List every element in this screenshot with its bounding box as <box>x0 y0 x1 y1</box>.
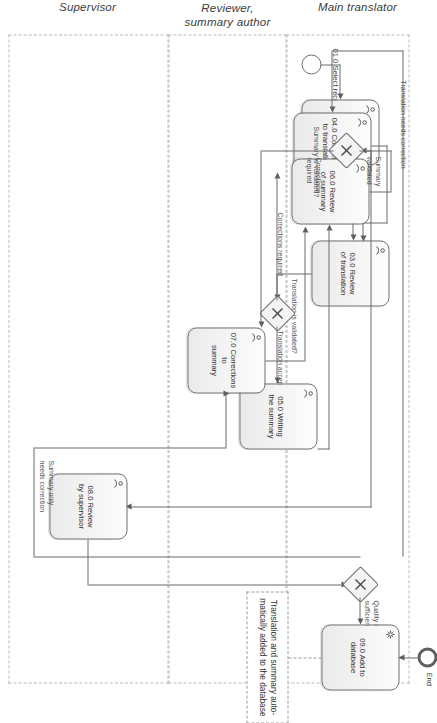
flow-gw1-to-t04-arrow <box>275 172 281 178</box>
start-event[interactable] <box>301 54 321 74</box>
annotation-database-link <box>288 657 321 658</box>
label-summary-only-needs-correction: Summary only needs correction <box>37 460 62 512</box>
flow-t05-to-t06-v <box>317 448 329 449</box>
flow-t04-loop-arrow <box>361 235 367 241</box>
flow-gw3-summary-corr-h2 <box>225 393 226 447</box>
label-translation-needs-correction: Translation needs correction <box>397 80 414 168</box>
end-event-label: End <box>424 672 433 686</box>
task-06-review-of-summary[interactable]: 06.0 Review of summary <box>291 158 369 224</box>
annotation-database-text: Translation and summary auto- matically … <box>256 598 279 716</box>
label-corrections-required-1-text: Corrections required <box>276 212 283 275</box>
flow-t09-to-end-arrow <box>398 654 404 660</box>
flow-start-to-t02-v <box>320 64 340 65</box>
lane-label-main-translator: Main translator <box>317 0 396 12</box>
label-summary-validated: Summary validated <box>364 156 389 186</box>
flow-gw3-to-t09-h <box>359 597 360 619</box>
task-07-label: 07.0 Corrections to summary <box>188 328 264 392</box>
label-corrections-required-1: Corrections required <box>274 212 291 275</box>
flow-gw3-summary-corr-v2 <box>34 556 360 557</box>
gateway-quality-sufficient[interactable] <box>347 571 373 597</box>
flow-t08-to-gw3-v <box>88 584 341 585</box>
task-03-review-of-translation[interactable]: 03.0 Review of translation <box>311 240 389 306</box>
label-summary-validated-text: Summary validated <box>365 156 380 186</box>
label-corrections-required-2-text: Corrections required <box>305 157 320 193</box>
flow-t02-to-t03-arrow <box>351 234 357 240</box>
flow-gw2-corr-v <box>261 150 333 151</box>
lane-label-text-reviewer: Reviewer, summary author <box>184 1 270 27</box>
gateway-translation-validated[interactable] <box>264 300 290 326</box>
flow-gw2-corr-arrow <box>259 321 265 327</box>
flow-start-to-t02-h <box>339 64 340 94</box>
task-03-label: 03.0 Review of translation <box>312 241 388 305</box>
flow-t07-back-arrow <box>303 226 309 232</box>
flow-t07-back-h <box>304 232 305 360</box>
lane-label-reviewer: Reviewer, summary author <box>184 0 270 29</box>
task-09-label: 09.0 Add to database <box>322 625 398 689</box>
flow-translation-needs-correction-h2 <box>331 50 332 108</box>
flow-gw2-validated-v <box>359 150 371 151</box>
lane-label-text-supervisor: Supervisor <box>59 0 116 12</box>
flow-t06-to-gw2-v <box>369 191 391 192</box>
flow-gw2-corr-h <box>260 150 261 322</box>
lane-label-supervisor: Supervisor <box>59 0 116 12</box>
flow-translation-needs-correction-v <box>332 50 403 51</box>
lane-label-text-main: Main translator <box>317 0 396 12</box>
flow-t06-to-gw2-h <box>390 150 391 191</box>
flow-t05-to-t06-arrow <box>327 224 333 230</box>
task-07-corrections-to-summary[interactable]: 07.0 Corrections to summary <box>187 327 265 393</box>
annotation-database: Translation and summary auto- matically … <box>246 591 288 723</box>
flow-t07-back-v <box>265 360 305 361</box>
end-event-label-text: End <box>424 672 433 686</box>
flow-gw3-summary-corr-v3 <box>34 447 226 448</box>
flow-gw3-to-t09-arrow <box>358 618 364 624</box>
flow-gw3-summary-corr-h <box>33 447 34 557</box>
flow-start-to-t02-arrow <box>338 93 344 99</box>
end-event[interactable] <box>417 647 437 667</box>
flow-t04-loop-v1 <box>371 145 387 146</box>
label-summary-only-needs-correction-text: Summary only needs correction <box>38 460 53 512</box>
flow-translation-needs-correction-arrow <box>330 106 336 112</box>
flow-gw2-validated-h <box>370 150 371 507</box>
task-05-label: 05.0 Writing the summary <box>240 384 316 448</box>
lane-supervisor <box>8 34 168 683</box>
gateway-summary-validated[interactable] <box>333 137 359 163</box>
label-corrections-required-2: Corrections required <box>304 157 329 193</box>
label-translation-needs-correction-text: Translation needs correction <box>399 80 406 168</box>
task-09-add-to-database[interactable]: 09.0 Add to database <box>321 624 399 690</box>
flow-gw2-validated-v2 <box>130 506 371 507</box>
flow-t05-to-t06-h <box>328 230 329 449</box>
flow-t08-to-gw3-h <box>87 539 88 585</box>
